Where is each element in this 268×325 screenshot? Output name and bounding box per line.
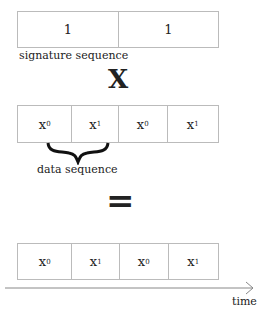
signature-cell: 1 bbox=[119, 12, 218, 47]
result-cell: x1 bbox=[72, 244, 120, 279]
curly-brace-icon bbox=[45, 141, 111, 165]
data-sequence: x0 x1 x0 x1 bbox=[17, 105, 219, 143]
time-axis-arrow-icon bbox=[0, 280, 268, 296]
result-cell: x0 bbox=[120, 244, 169, 279]
data-cell: x1 bbox=[168, 106, 218, 142]
data-cell: x0 bbox=[119, 106, 168, 142]
result-sequence: x0 x1 x0 x1 bbox=[17, 243, 219, 280]
data-label: data sequence bbox=[37, 163, 118, 176]
signature-label: signature sequence bbox=[19, 49, 128, 62]
result-cell: x0 bbox=[18, 244, 72, 279]
signature-sequence: 1 1 bbox=[17, 11, 219, 48]
equals-operator: = bbox=[106, 180, 135, 220]
signature-cell: 1 bbox=[18, 12, 119, 47]
data-cell: x1 bbox=[72, 106, 119, 142]
data-cell: x0 bbox=[18, 106, 72, 142]
result-cell: x1 bbox=[169, 244, 219, 279]
time-axis-label: time bbox=[232, 295, 257, 308]
multiply-operator: X bbox=[108, 64, 128, 94]
